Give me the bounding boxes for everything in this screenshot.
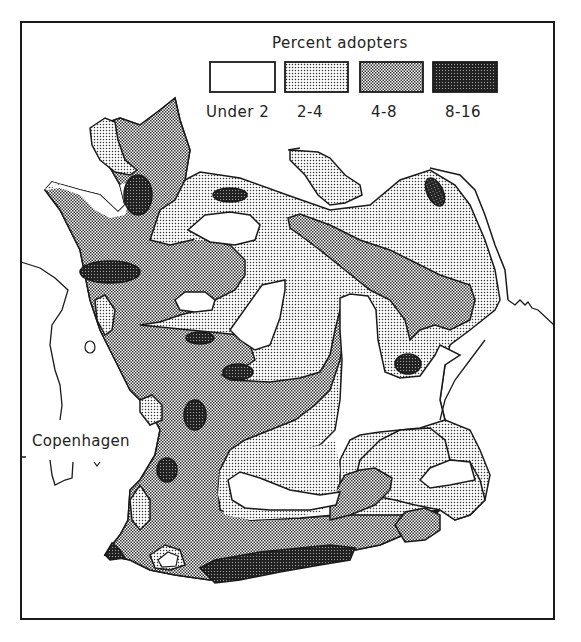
region-8-16-e bbox=[223, 364, 253, 380]
region-8-16-b bbox=[213, 188, 247, 202]
region-8-16-c bbox=[80, 261, 140, 283]
legend-label-8-16: 8-16 bbox=[445, 103, 481, 121]
legend-swatch-under-2 bbox=[210, 62, 275, 92]
region-8-16-a bbox=[124, 175, 152, 215]
region-8-16-j bbox=[157, 458, 177, 482]
legend-swatch-8-16 bbox=[433, 62, 497, 92]
legend-swatch-4-8 bbox=[360, 62, 423, 92]
region-under-2-central bbox=[175, 292, 215, 312]
tick-mark bbox=[94, 462, 100, 466]
region-8-16-d bbox=[186, 332, 214, 344]
legend-swatch-2-4 bbox=[285, 62, 348, 92]
legend-swatches bbox=[0, 0, 581, 130]
legend-label-2-4: 2-4 bbox=[297, 103, 323, 121]
region-2-4-north-island bbox=[290, 150, 362, 205]
island-small bbox=[85, 341, 95, 353]
legend-label-under-2: Under 2 bbox=[206, 103, 269, 121]
region-8-16-f bbox=[184, 400, 206, 430]
coastline-zealand-south bbox=[50, 460, 73, 485]
border-northeast-wiggle bbox=[508, 300, 554, 325]
city-label-copenhagen: Copenhagen bbox=[32, 432, 130, 450]
coastline-zealand bbox=[21, 262, 68, 420]
legend-label-4-8: 4-8 bbox=[371, 103, 397, 121]
region-8-16-g bbox=[395, 354, 421, 374]
